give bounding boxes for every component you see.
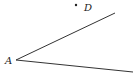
vertex-label-a: A <box>4 55 12 66</box>
angle-diagram: A D <box>0 0 133 75</box>
point-label-d: D <box>83 2 92 13</box>
lower-ray <box>16 60 133 72</box>
upper-ray <box>16 13 115 60</box>
point-d-dot <box>75 4 77 6</box>
